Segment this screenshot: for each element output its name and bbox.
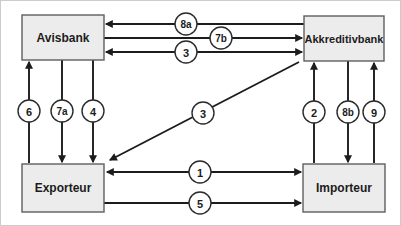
badge-7b: 7b [210, 27, 232, 49]
badge-8a-label: 8a [180, 19, 192, 30]
badge-9: 9 [363, 101, 385, 123]
badge-1-label: 1 [197, 167, 203, 179]
badge-9-label: 9 [371, 107, 377, 119]
badge-1: 1 [189, 161, 211, 183]
badge-3-horizontal: 3 [175, 41, 197, 63]
badge-6: 6 [18, 100, 40, 122]
avisbank-label: Avisbank [37, 31, 90, 45]
letter-of-credit-flow-diagram: Avisbank Akkreditivbank Exporteur Import… [0, 0, 401, 226]
badge-2: 2 [303, 101, 325, 123]
badge-7b-label: 7b [215, 33, 227, 44]
badge-8a: 8a [175, 13, 197, 35]
badge-6-label: 6 [26, 106, 32, 118]
node-exporteur: Exporteur [22, 164, 104, 212]
badge-8b-label: 8b [342, 107, 354, 118]
badge-3h-label: 3 [183, 47, 189, 59]
diagram-canvas: Avisbank Akkreditivbank Exporteur Import… [1, 1, 401, 226]
node-importeur: Importeur [303, 164, 385, 212]
node-avisbank: Avisbank [22, 15, 104, 60]
badge-8b: 8b [337, 101, 359, 123]
exporteur-label: Exporteur [35, 181, 92, 195]
node-akkreditivbank: Akkreditivbank [304, 16, 384, 61]
badge-4-label: 4 [90, 106, 97, 118]
badge-7a-label: 7a [56, 106, 68, 117]
importeur-label: Importeur [316, 181, 372, 195]
badge-5-label: 5 [197, 198, 203, 210]
badge-2-label: 2 [311, 107, 317, 119]
badge-3-diagonal: 3 [192, 102, 214, 124]
akkreditivbank-label: Akkreditivbank [305, 33, 385, 45]
badge-3d-label: 3 [200, 108, 206, 120]
badge-5: 5 [189, 192, 211, 214]
badge-4: 4 [82, 100, 104, 122]
badge-7a: 7a [51, 100, 73, 122]
